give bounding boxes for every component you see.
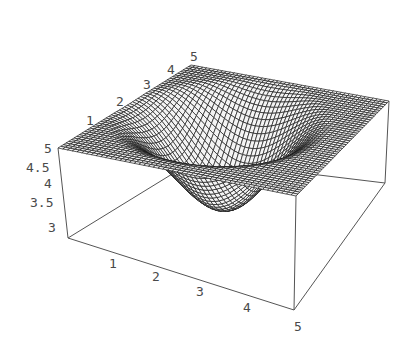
x-axis-tick-label: 3 [196, 284, 204, 299]
surface-cell [291, 193, 298, 196]
x-axis-tick-label: 1 [109, 256, 117, 271]
z-axis-tick-label: 5 [44, 141, 52, 156]
surface-mesh [58, 65, 389, 211]
x-axis-tick-label: 2 [152, 269, 160, 284]
x-axis-tick-label: 4 [243, 300, 251, 315]
x-axis-tick-label: 5 [294, 319, 302, 334]
y-axis-tick-label: 4 [167, 62, 175, 77]
z-axis-tick-label: 3 [48, 220, 56, 235]
x-axis-tick-labels: 12345 [109, 256, 302, 334]
box-edge-front-vertical [294, 196, 296, 310]
z-axis-tick-label: 3.5 [30, 195, 53, 210]
y-axis-tick-label: 3 [143, 77, 151, 92]
y-axis-tick-label: 5 [190, 49, 198, 64]
y-axis-tick-label: 1 [86, 113, 94, 128]
z-axis-tick-label: 4 [44, 176, 52, 191]
z-axis-tick-label: 4.5 [26, 160, 49, 175]
z-axis-tick-labels: 54.543.53 [26, 141, 56, 235]
surface-plot-3d: 12345 12345 54.543.53 [0, 0, 413, 348]
y-axis-tick-label: 2 [116, 94, 124, 109]
